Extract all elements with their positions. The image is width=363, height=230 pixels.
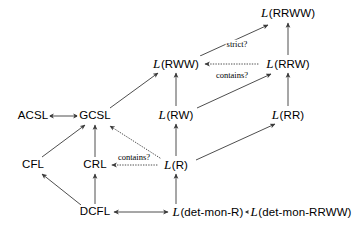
node-cfl: CFL <box>20 158 46 172</box>
edge-label-contains-left-label: contains? <box>117 153 151 162</box>
node-l_r: L(R) <box>162 157 190 173</box>
edge-lr-lrr <box>196 124 275 160</box>
node-label: (det-mon-R) <box>180 206 243 218</box>
node-label: (R) <box>172 159 188 171</box>
node-dcfl: DCFL <box>78 205 112 219</box>
node-label: (RRWW) <box>269 7 315 19</box>
edge-dcfl-cfl <box>42 174 81 205</box>
node-l_rrw: L(RRW) <box>264 56 311 72</box>
edge-label-strict-label: strict? <box>226 40 249 49</box>
edge-cfl-gcsl <box>42 125 85 157</box>
edge-label-contains-top-label: contains? <box>215 71 249 80</box>
calligraphic-l-icon: L <box>266 56 274 71</box>
calligraphic-l-icon: L <box>159 107 167 122</box>
node-label: (RW) <box>166 109 193 121</box>
edge-gcsl-lrww <box>110 73 158 108</box>
node-gcsl: GCSL <box>77 109 113 123</box>
node-l_dmrrww: L(det-mon-RRWW) <box>248 204 353 220</box>
node-l_rww: L(RWW) <box>151 56 201 72</box>
hierarchy-diagram: ACSLGCSLCFLCRLDCFLL(R)L(RW)L(RWW)L(RR)L(… <box>0 0 363 230</box>
node-l_rrww: L(RRWW) <box>259 5 317 21</box>
calligraphic-l-icon: L <box>164 157 172 172</box>
calligraphic-l-icon: L <box>261 5 269 20</box>
node-label: (RWW) <box>161 58 199 70</box>
node-label: (det-mon-RRWW) <box>258 206 351 218</box>
calligraphic-l-icon: L <box>173 204 181 219</box>
node-l_rw: L(RW) <box>157 107 196 123</box>
node-l_dmr: L(det-mon-R) <box>171 204 246 220</box>
calligraphic-l-icon: L <box>250 204 258 219</box>
node-l_rr: L(RR) <box>270 107 307 123</box>
calligraphic-l-icon: L <box>272 107 280 122</box>
node-label: (RRW) <box>274 58 309 70</box>
calligraphic-l-icon: L <box>153 56 161 71</box>
node-acsl: ACSL <box>16 109 50 123</box>
node-label: (RR) <box>280 109 305 121</box>
node-crl: CRL <box>81 158 108 172</box>
